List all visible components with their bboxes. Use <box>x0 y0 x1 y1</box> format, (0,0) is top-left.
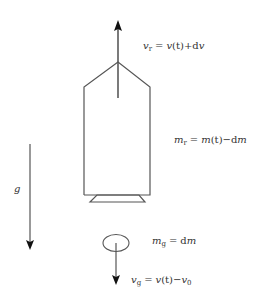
gravity-arrow <box>26 144 34 250</box>
rocket-body <box>84 62 150 202</box>
gas-velocity-label: vg=v(t)−v0 <box>131 274 192 287</box>
gas-velocity-arrow <box>112 243 120 285</box>
rocket-velocity-label: vr=v(t)+dv <box>143 40 205 53</box>
gas-mass-label: mg=dm <box>152 235 196 248</box>
rocket-mass-label: mr=m(t)−dm <box>174 134 247 147</box>
rocket-velocity-arrow <box>114 20 122 98</box>
gravity-label: g <box>14 183 20 194</box>
rocket-diagram: vr=v(t)+dv mr=m(t)−dm g mg=dm vg=v(t)−v0 <box>0 0 258 300</box>
rocket-nozzle <box>90 195 145 202</box>
